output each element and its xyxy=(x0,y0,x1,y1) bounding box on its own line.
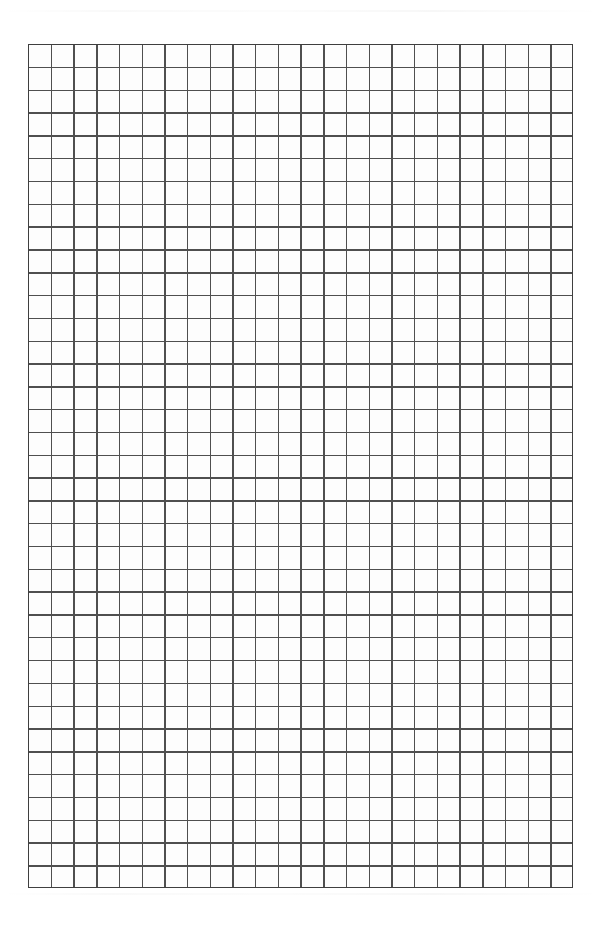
scan-artifact-top-icon xyxy=(0,10,603,12)
scan-artifact-bottom-icon xyxy=(0,893,603,895)
page-sheet xyxy=(0,0,603,936)
grid-paper-area xyxy=(28,44,573,888)
grid-rule-lines xyxy=(28,44,573,888)
